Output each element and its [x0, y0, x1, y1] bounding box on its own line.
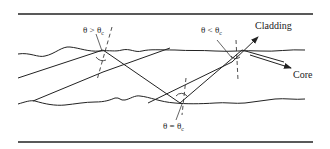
core-arrow — [250, 55, 291, 68]
label-core: Core — [293, 69, 313, 80]
ray-escaping — [33, 48, 170, 101]
label-angle-less: θ < θc — [201, 25, 222, 36]
ray-refracted — [148, 62, 232, 103]
fiber-diagram: θ > θc θ < θc θ = θc Cladding Core — [0, 0, 330, 149]
ray-total-reflection — [18, 50, 284, 103]
leader-equal — [176, 104, 182, 120]
leader-less — [217, 40, 232, 58]
label-angle-greater: θ > θc — [83, 25, 104, 36]
label-angle-equal: θ = θc — [163, 121, 184, 132]
core-interface-bottom — [18, 96, 305, 105]
normal-right — [236, 40, 238, 80]
label-cladding: Cladding — [255, 20, 292, 31]
angle-arc-bottom — [176, 93, 187, 96]
leader-greater — [96, 34, 102, 51]
core-interface-top — [18, 47, 305, 57]
angle-arc-left — [96, 57, 106, 61]
normal-bottom — [182, 78, 186, 115]
